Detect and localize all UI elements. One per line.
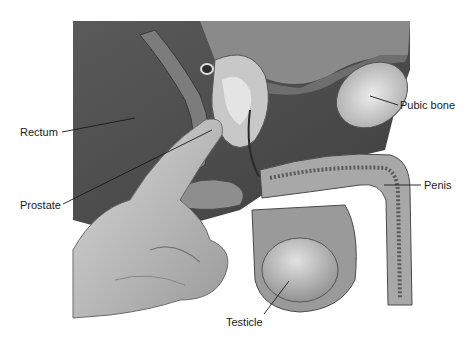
label-testicle: Testicle <box>226 316 263 329</box>
label-rectum: Rectum <box>20 126 58 139</box>
anatomy-illustration <box>0 0 469 344</box>
testicle-shape <box>262 238 338 302</box>
ureter-ring <box>201 64 213 74</box>
label-prostate: Prostate <box>20 199 61 212</box>
label-penis: Penis <box>424 179 452 192</box>
anatomy-figure: Rectum Prostate Pubic bone Penis Testicl… <box>0 0 469 344</box>
label-pubic-bone: Pubic bone <box>400 99 455 112</box>
